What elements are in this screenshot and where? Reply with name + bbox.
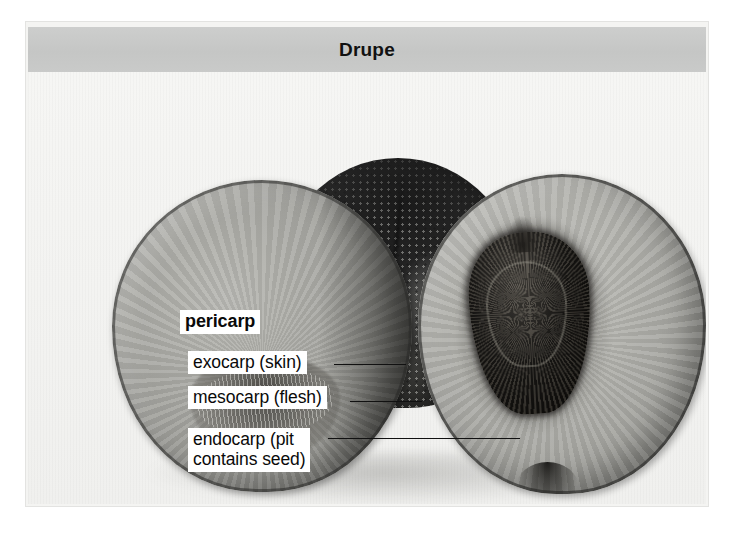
callout-label-mesocarp: mesocarp (flesh) [188, 386, 327, 409]
figure-title-bar: Drupe [28, 27, 706, 72]
peach-half-right [418, 174, 706, 494]
figure-title: Drupe [339, 39, 395, 61]
callout-label-exocarp: exocarp (skin) [188, 351, 307, 374]
leader-line-endocarp [328, 438, 520, 439]
callout-label-endocarp: endocarp (pit contains seed) [188, 428, 310, 472]
drupe-figure: Drupe [0, 0, 733, 533]
leader-line-mesocarp [350, 401, 422, 402]
specimen-photo-plate: pericarp exocarp (skin) mesocarp (flesh)… [28, 72, 706, 504]
exocarp-rind-right [418, 174, 706, 494]
leader-line-exocarp [334, 364, 406, 365]
callout-label-pericarp: pericarp [180, 310, 260, 334]
